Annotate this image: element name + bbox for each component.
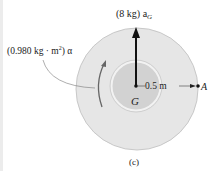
force-label: (8 kg) aG [116, 8, 152, 21]
caption: (c) [129, 157, 139, 167]
left-edge [0, 0, 3, 171]
point-a-label: A [200, 81, 208, 92]
radius-label: 0.5 m [145, 81, 167, 91]
center-point [134, 84, 138, 88]
moment-label: (0.980 kg · m2) α [7, 45, 72, 57]
free-body-diagram: (8 kg) aG (0.980 kg · m2) α G 0.5 m A (c… [0, 0, 213, 171]
point-a [196, 84, 200, 88]
center-label: G [131, 95, 139, 107]
